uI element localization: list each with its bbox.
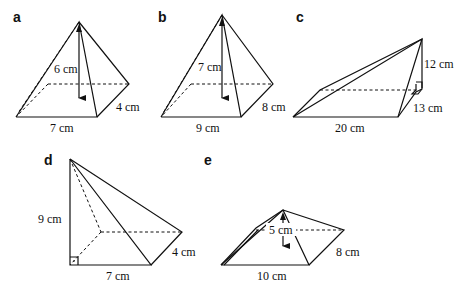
height-label-a: 6 cm (54, 62, 78, 76)
pyramids-diagram: a 6 cm 7 cm 4 cm b 7 cm 9 cm 8 cm c 12 c… (0, 0, 463, 290)
base-length-label-b: 9 cm (196, 121, 220, 135)
pyramid-a: a 6 cm 7 cm 4 cm (13, 9, 140, 135)
figure-label-c: c (296, 9, 304, 25)
base-width-label-c: 13 cm (413, 101, 443, 115)
base-width-label-e: 8 cm (336, 245, 360, 259)
base-length-label-e: 10 cm (257, 269, 287, 283)
pyramid-e: e 5 cm 10 cm 8 cm (204, 152, 360, 283)
base-width-label-b: 8 cm (262, 100, 286, 114)
pyramid-d: d 9 cm 7 cm 4 cm (38, 152, 196, 283)
height-label-d: 9 cm (38, 212, 62, 226)
base-width-label-a: 4 cm (116, 100, 140, 114)
height-label-e: 5 cm (269, 223, 293, 237)
figure-label-a: a (13, 9, 21, 25)
figure-label-e: e (204, 152, 212, 168)
base-width-label-d: 4 cm (172, 245, 196, 259)
height-label-c: 12 cm (424, 57, 454, 71)
pyramid-c: c 12 cm 20 cm 13 cm (293, 9, 454, 135)
base-length-label-d: 7 cm (106, 269, 130, 283)
figure-label-d: d (44, 152, 53, 168)
base-length-label-c: 20 cm (335, 121, 365, 135)
base-length-label-a: 7 cm (50, 121, 74, 135)
height-label-b: 7 cm (198, 60, 222, 74)
pyramid-b: b 7 cm 9 cm 8 cm (158, 9, 286, 135)
figure-label-b: b (158, 9, 167, 25)
